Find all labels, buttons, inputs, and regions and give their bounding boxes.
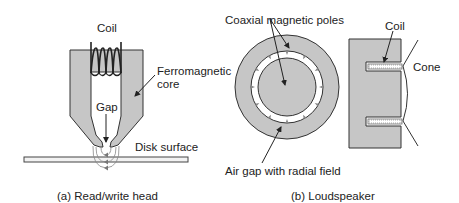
caption-a: (a) Read/write head bbox=[57, 190, 158, 202]
loudspeaker: Coaxial magnetic poles Air gap with radi… bbox=[225, 14, 441, 202]
caption-b: (b) Loudspeaker bbox=[291, 190, 375, 202]
coil-label-b: Coil bbox=[385, 20, 405, 32]
cone-label: Cone bbox=[413, 61, 441, 73]
inner-pole bbox=[258, 58, 316, 116]
disk-surface-label: Disk surface bbox=[135, 141, 198, 153]
read-write-head: Coil Ferromagnetic core Gap Disk surface… bbox=[24, 22, 231, 202]
speaker-section-view bbox=[349, 31, 418, 148]
coaxial-poles-view bbox=[235, 19, 339, 163]
core-label-line1: Ferromagnetic bbox=[157, 65, 231, 77]
coil-label-a: Coil bbox=[97, 22, 117, 34]
magnet-block bbox=[349, 39, 401, 148]
poles-label: Coaxial magnetic poles bbox=[225, 14, 344, 26]
cone bbox=[403, 40, 418, 146]
gap-label: Gap bbox=[96, 101, 118, 113]
magnetic-devices-diagram: Coil Ferromagnetic core Gap Disk surface… bbox=[0, 0, 459, 203]
air-gap-label: Air gap with radial field bbox=[225, 165, 341, 177]
core-label-line2: core bbox=[157, 78, 179, 90]
